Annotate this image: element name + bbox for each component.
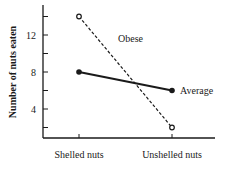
y-ticks: 4812 xyxy=(26,17,48,128)
series-line-average xyxy=(79,72,172,91)
y-tick-label: 4 xyxy=(31,104,36,115)
series-label-average: Average xyxy=(180,85,214,96)
series-label-obese: Obese xyxy=(118,33,144,44)
filled-circle-marker xyxy=(169,88,175,94)
x-category-label: Shelled nuts xyxy=(54,149,103,160)
x-category-label: Unshelled nuts xyxy=(142,149,202,160)
labels: ObeseAverageNumber of nuts eaten xyxy=(7,25,214,118)
y-axis-label: Number of nuts eaten xyxy=(7,25,18,118)
y-tick-label: 12 xyxy=(26,30,36,41)
open-circle-marker xyxy=(170,125,175,130)
filled-circle-marker xyxy=(76,69,82,75)
open-circle-marker xyxy=(77,14,82,19)
y-tick-label: 8 xyxy=(31,67,36,78)
series-lines xyxy=(76,14,175,130)
axes xyxy=(43,5,215,138)
line-chart: 4812 Shelled nutsUnshelled nuts ObeseAve… xyxy=(0,0,232,172)
